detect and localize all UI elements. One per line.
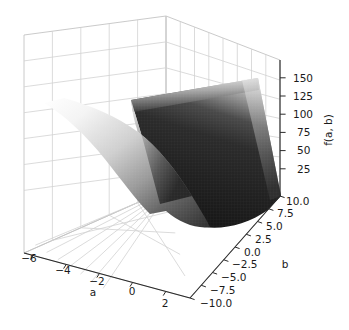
- figure-canvas: −6 −4 −2 0 2 a −10.0 −7.5 −5.0 −2.5 0.0 …: [0, 0, 349, 330]
- x-tick-label: −6: [21, 252, 37, 264]
- z-tick-labels: 150 125 100 75 50 25: [293, 72, 313, 175]
- surface-plot-3d: −6 −4 −2 0 2 a −10.0 −7.5 −5.0 −2.5 0.0 …: [0, 0, 349, 330]
- x-axis: [24, 253, 190, 298]
- y-tick-label: −7.5: [210, 284, 236, 296]
- z-axis: [280, 60, 286, 196]
- x-tick-label: 0: [129, 285, 136, 297]
- x-tick-label: −4: [55, 264, 71, 276]
- y-tick-label: 7.5: [277, 207, 294, 219]
- z-tick-label: 125: [293, 90, 313, 102]
- z-tick-label: 25: [297, 163, 310, 175]
- y-tick-label: 0.0: [244, 246, 261, 258]
- x-axis-spine: [24, 253, 190, 298]
- y-tick-label: −2.5: [232, 258, 258, 270]
- z-axis-label: f(a, b): [322, 114, 334, 146]
- z-tick-label: 100: [293, 108, 313, 120]
- y-tick-label: −10.0: [200, 297, 232, 309]
- z-tick-label: 50: [297, 144, 310, 156]
- surface-mesh: [24, 60, 294, 240]
- z-tick-label: 150: [293, 72, 313, 84]
- x-axis-label: a: [90, 286, 96, 298]
- y-axis-label: b: [282, 258, 289, 270]
- y-tick-label: 10.0: [286, 195, 309, 207]
- z-axis-ticks: [280, 78, 286, 169]
- z-tick-label: 75: [297, 126, 310, 138]
- y-tick-label: 5.0: [266, 220, 283, 232]
- y-tick-label: 2.5: [255, 233, 272, 245]
- x-tick-label: 2: [162, 297, 169, 309]
- surface-wireframe-texture: [24, 60, 294, 240]
- y-tick-label: −5.0: [221, 271, 247, 283]
